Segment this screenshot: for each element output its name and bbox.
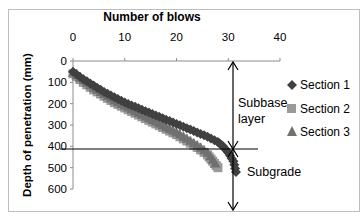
y-tick-label: 400 [48, 140, 67, 152]
legend-triangle-icon [287, 126, 297, 136]
x-axis-ticks: 010203040 [70, 31, 287, 61]
y-axis-label: Depth of penetration (mm) [21, 53, 33, 197]
y-tick-label: 500 [48, 162, 67, 174]
x-tick-label: 30 [222, 31, 235, 43]
legend-square-icon [287, 104, 296, 113]
subbase-label-line2: layer [238, 112, 265, 126]
legend-section-3: Section 3 [300, 125, 350, 139]
x-tick-label: 0 [70, 31, 76, 43]
chart-canvas: Number of blows 010203040 01002003004005… [0, 0, 363, 220]
y-tick-label: 300 [48, 119, 67, 131]
x-tick-label: 10 [118, 31, 131, 43]
legend: Section 1 Section 2 Section 3 [287, 78, 350, 139]
legend-diamond-icon [287, 80, 297, 90]
chart-title: Number of blows [103, 10, 201, 24]
subbase-label-line1: Subbase [238, 96, 287, 110]
x-tick-label: 40 [274, 31, 287, 43]
y-tick-label: 200 [48, 98, 67, 110]
y-tick-label: 0 [61, 55, 67, 67]
subgrade-label: Subgrade [247, 165, 301, 179]
y-tick-label: 600 [48, 183, 67, 195]
legend-section-2: Section 2 [300, 102, 350, 116]
data-series [68, 67, 241, 177]
legend-section-1: Section 1 [300, 78, 350, 92]
y-tick-label: 100 [48, 76, 67, 88]
x-tick-label: 20 [170, 31, 183, 43]
